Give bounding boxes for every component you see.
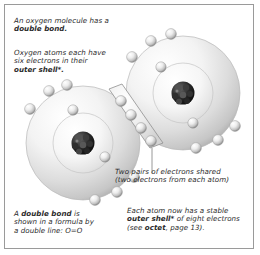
octet-line-3: (see octet, page 13).	[127, 224, 253, 232]
shared-line-2: (two electrons from each atom)	[115, 176, 254, 184]
six-line-3: outer shell*.	[14, 66, 134, 74]
octet-caption: Each atom now has a stable outer shell* …	[127, 207, 253, 232]
six-electrons-caption: Oxygen atoms each have six electrons in …	[14, 49, 134, 74]
shared-electrons-caption: Two pairs of electrons shared (two elect…	[115, 168, 254, 185]
shared-electron	[126, 110, 137, 121]
left-nucleus	[72, 132, 95, 155]
shared-electron	[136, 123, 147, 134]
double-bond-caption: A double bond is shown in a formula by a…	[14, 210, 119, 235]
figure-frame: An oxygen molecule has a double bond. Ox…	[4, 4, 254, 249]
shared-electron	[146, 136, 157, 147]
intro-caption: An oxygen molecule has a double bond.	[14, 17, 134, 34]
right-nucleus	[172, 82, 195, 105]
intro-line-2: double bond.	[14, 25, 134, 33]
shared-electron	[116, 96, 127, 107]
dbl-line-3: a double line: O=O	[14, 227, 119, 235]
